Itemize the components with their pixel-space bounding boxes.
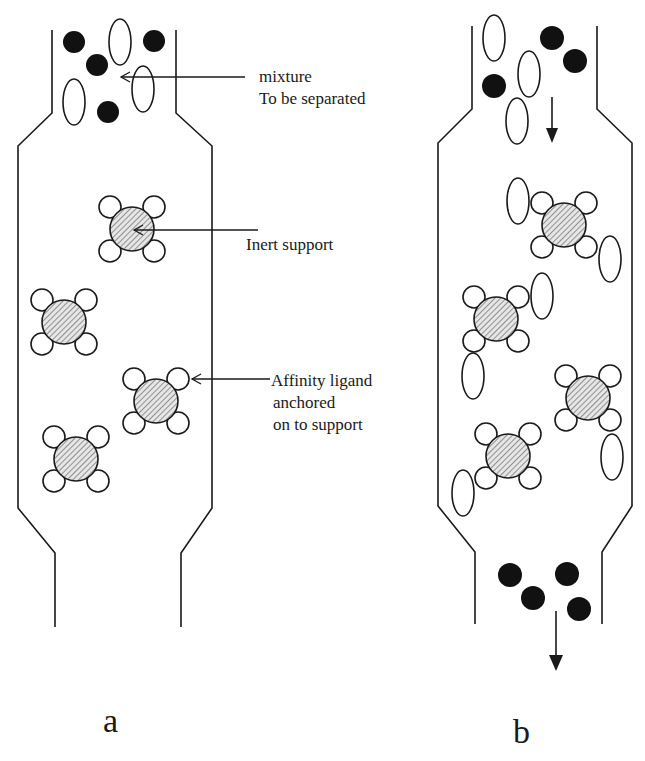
bound-molecule bbox=[531, 273, 553, 319]
bound-molecule bbox=[599, 236, 621, 282]
panel-label-a: a bbox=[103, 703, 118, 739]
target-solute bbox=[540, 26, 564, 50]
label-to-be-separated: To be separated bbox=[259, 88, 365, 110]
contaminant bbox=[109, 19, 131, 65]
affinity-bead bbox=[31, 289, 97, 355]
affinity-bead bbox=[43, 426, 109, 492]
mixture-particles-b bbox=[482, 15, 587, 144]
flow-arrow-down-icon bbox=[546, 97, 558, 143]
bound-molecule bbox=[452, 470, 474, 516]
contaminant bbox=[483, 15, 505, 61]
target-solute bbox=[143, 30, 165, 52]
eluted-particles-b bbox=[498, 562, 591, 621]
panel-label-b: b bbox=[513, 714, 530, 750]
target-solute bbox=[521, 586, 545, 610]
column-b bbox=[438, 26, 632, 624]
bound-molecule bbox=[462, 353, 484, 399]
label-affinity-ligand: Affinity ligand bbox=[271, 370, 372, 392]
mixture-particles-a bbox=[63, 19, 165, 125]
target-solute bbox=[63, 31, 85, 53]
column-b-left-wall bbox=[438, 26, 475, 624]
contaminant bbox=[506, 98, 528, 144]
label-on-to-support: on to support bbox=[273, 414, 363, 436]
bound-molecule bbox=[601, 434, 623, 480]
affinity-bead bbox=[531, 192, 597, 258]
label-inert-support: Inert support bbox=[246, 234, 333, 256]
affinity-bead bbox=[123, 368, 189, 434]
target-solute bbox=[482, 74, 506, 98]
target-solute bbox=[555, 562, 579, 586]
target-solute bbox=[97, 101, 119, 123]
label-anchored: anchored bbox=[273, 392, 335, 414]
affinity-beads-a bbox=[31, 196, 189, 492]
bound-molecule bbox=[507, 178, 529, 224]
contaminant bbox=[132, 66, 154, 112]
target-solute bbox=[563, 49, 587, 73]
column-b-right-wall bbox=[597, 26, 632, 624]
contaminant bbox=[518, 51, 540, 97]
target-solute bbox=[86, 54, 108, 76]
affinity-bead bbox=[463, 286, 529, 352]
target-solute bbox=[498, 563, 522, 587]
target-solute bbox=[567, 597, 591, 621]
contaminant bbox=[63, 79, 85, 125]
label-mixture: mixture bbox=[259, 66, 312, 88]
affinity-bead bbox=[555, 365, 621, 431]
affinity-bead bbox=[475, 423, 541, 489]
affinity-beads-b bbox=[452, 178, 623, 516]
column-a-right-wall bbox=[176, 30, 212, 627]
outflow-arrow-down-icon bbox=[549, 611, 563, 671]
affinity-bead bbox=[99, 196, 165, 262]
